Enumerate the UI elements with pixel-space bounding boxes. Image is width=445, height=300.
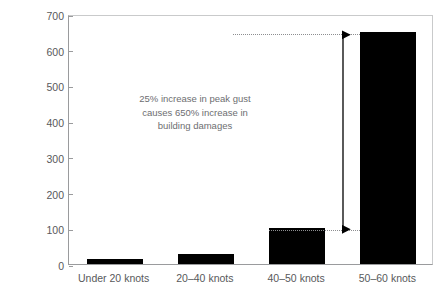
y-axis-tick-mark — [69, 16, 73, 17]
plot-area: 0100200300400500600700 — [68, 15, 433, 265]
x-axis-tick-label: 50–60 knots — [327, 272, 445, 284]
chart-figure: % Increase in damages 010020030040050060… — [0, 0, 445, 300]
y-axis-tick-label: 600 — [46, 46, 69, 58]
y-axis-tick-mark — [69, 87, 73, 88]
y-axis-tick-label: 300 — [46, 153, 69, 165]
bar — [269, 228, 325, 264]
range-arrow-icon — [333, 16, 353, 266]
y-axis-tick: 700 — [46, 10, 69, 22]
y-axis-tick-mark — [69, 194, 73, 195]
y-axis-tick-label: 0 — [58, 260, 69, 272]
y-axis-tick-mark — [69, 123, 73, 124]
annotation-line: causes 650% increase in — [110, 106, 280, 120]
annotation-line: 25% increase in peak gust — [110, 92, 280, 106]
y-axis-tick-mark — [69, 266, 73, 267]
y-axis-tick: 500 — [46, 81, 69, 93]
y-axis-tick: 300 — [46, 153, 69, 165]
y-axis-tick: 600 — [46, 46, 69, 58]
y-axis-tick: 0 — [58, 260, 69, 272]
bar — [360, 32, 416, 264]
bar — [87, 259, 143, 264]
annotation-line: building damages — [110, 119, 280, 133]
y-axis-tick-mark — [69, 158, 73, 159]
y-axis-tick-label: 400 — [46, 117, 69, 129]
y-axis-tick: 100 — [46, 224, 69, 236]
annotation-callout: 25% increase in peak gustcauses 650% inc… — [110, 92, 280, 133]
y-axis-tick-label: 500 — [46, 81, 69, 93]
y-axis-tick-label: 200 — [46, 189, 69, 201]
y-axis-tick-mark — [69, 230, 73, 231]
y-axis-tick-label: 700 — [46, 10, 69, 22]
y-axis-title: % Increase in damages — [0, 0, 22, 22]
bar — [178, 254, 234, 264]
y-axis-tick-label: 100 — [46, 224, 69, 236]
y-axis-tick: 400 — [46, 117, 69, 129]
y-axis-tick-mark — [69, 51, 73, 52]
y-axis-tick: 200 — [46, 189, 69, 201]
